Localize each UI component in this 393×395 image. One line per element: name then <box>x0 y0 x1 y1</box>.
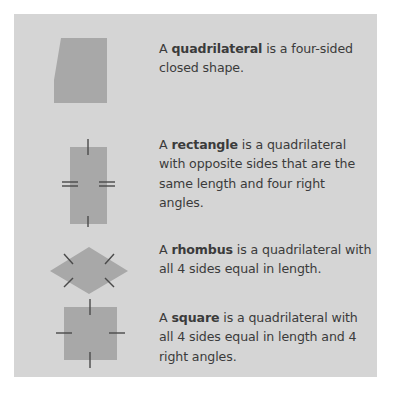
square-shape <box>14 299 159 377</box>
quadrilateral-shape <box>14 33 159 125</box>
definition-article-rectangle: A <box>159 137 171 152</box>
definition-term-square: square <box>171 310 219 325</box>
quadrilaterals-poster: A quadrilateral is a four-sided closed s… <box>14 14 377 377</box>
rectangle-shape <box>14 127 159 227</box>
rhombus-shape <box>14 231 159 301</box>
figure-cell-rhombus <box>14 231 159 301</box>
definition-term-quadrilateral: quadrilateral <box>171 41 262 56</box>
definition-row-square: A square is a quadrilateral with all 4 s… <box>14 299 377 377</box>
definition-row-quadrilateral: A quadrilateral is a four-sided closed s… <box>14 33 377 125</box>
definition-text-quadrilateral: A quadrilateral is a four-sided closed s… <box>159 33 377 78</box>
definition-text-rectangle: A rectangle is a quadrilateral with oppo… <box>159 127 377 213</box>
definition-text-rhombus: A rhombus is a quadrilateral with all 4 … <box>159 231 377 279</box>
definition-term-rectangle: rectangle <box>171 137 238 152</box>
definition-row-rectangle: A rectangle is a quadrilateral with oppo… <box>14 127 377 227</box>
definition-row-rhombus: A rhombus is a quadrilateral with all 4 … <box>14 231 377 301</box>
definition-term-rhombus: rhombus <box>171 242 233 257</box>
definition-article-quadrilateral: A <box>159 41 171 56</box>
figure-cell-rectangle <box>14 127 159 227</box>
figure-cell-square <box>14 299 159 377</box>
definition-article-square: A <box>159 310 171 325</box>
definition-article-rhombus: A <box>159 242 171 257</box>
figure-cell-quadrilateral <box>14 33 159 125</box>
definition-text-square: A square is a quadrilateral with all 4 s… <box>159 299 377 366</box>
